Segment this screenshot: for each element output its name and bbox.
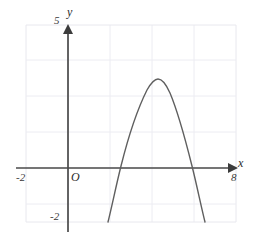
y-axis-label: y (67, 6, 72, 18)
x-axis-label: x (238, 157, 243, 169)
y-axis-max-tick-label: 5 (54, 15, 60, 26)
parabola-curve (108, 79, 205, 222)
parabola-plot (0, 0, 258, 237)
graph-figure: y x O 5 -2 -2 8 (0, 0, 258, 237)
y-axis (63, 24, 73, 232)
grid-lines (26, 25, 236, 222)
y-axis-min-tick-label: -2 (50, 211, 59, 222)
x-axis-max-tick-label: 8 (231, 172, 237, 183)
x-axis (16, 163, 238, 173)
x-axis-min-tick-label: -2 (16, 172, 25, 183)
origin-label: O (71, 171, 80, 183)
